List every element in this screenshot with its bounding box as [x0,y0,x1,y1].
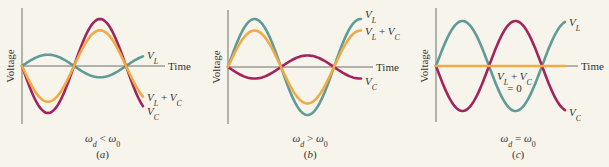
label-vl: VL [365,8,377,25]
x-axis-label: Time [581,60,604,72]
x-axis-label: Time [376,61,399,73]
caption-tag: (a) [96,148,109,161]
label-vc: VC [569,106,582,123]
label-vl: VL [569,16,581,33]
x-axis-label: Time [168,60,191,72]
panel-c: VoltageTimeVLVCVL + VC= 0ωd = ω0(c) [418,8,604,161]
y-axis-label: Voltage [418,49,430,83]
caption-tag: (b) [304,148,317,161]
label-vl-plus-vc: VL + VC [365,25,401,42]
panel-b: VoltageTimeVLVL + VCVCωd > ω0(b) [210,8,401,161]
lc-resonance-figure: VoltageTimeVLVL + VCVCωd < ω0(a)VoltageT… [0,0,609,167]
annotation-equals-zero: = 0 [507,82,522,94]
caption-condition: ωd < ω0 [85,132,120,149]
panel-a: VoltageTimeVLVL + VCVCωd < ω0(a) [4,8,191,161]
y-axis-label: Voltage [210,50,222,84]
three-panel-voltage-plot: VoltageTimeVLVL + VCVCωd < ω0(a)VoltageT… [0,0,609,167]
caption-condition: ωd > ω0 [293,132,328,149]
caption-tag: (c) [512,148,525,161]
label-vc: VC [365,75,378,92]
caption-condition: ωd = ω0 [501,132,536,149]
label-vl: VL [147,49,159,66]
label-vc: VC [147,105,160,122]
y-axis-label: Voltage [4,49,16,83]
